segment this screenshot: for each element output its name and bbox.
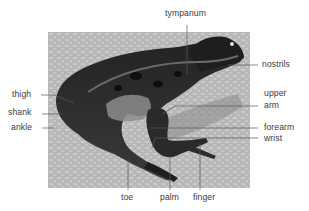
label-toe: toe [121,193,133,202]
label-wrist: wrist [264,134,282,143]
label-upper-arm-line1: upper [264,89,286,98]
label-palm: palm [160,193,179,202]
label-thigh: thigh [12,90,31,99]
label-shank: shank [8,108,31,117]
label-ankle: ankle [11,123,32,132]
frog-anatomy-diagram: tympanum nostrils thigh shank ankle uppe… [0,0,309,211]
label-forearm: forearm [264,123,294,132]
label-nostrils: nostrils [262,60,290,69]
label-upper-arm-line2: arm [264,101,279,110]
leader-lines [0,0,309,211]
label-tympanum: tympanum [165,9,206,18]
label-finger: finger [193,193,215,202]
